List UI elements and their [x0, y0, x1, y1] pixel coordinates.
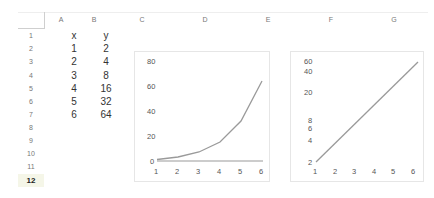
cell-a4[interactable]: 3	[66, 70, 82, 82]
x-tick-label: 6	[411, 167, 415, 176]
column-header-c[interactable]: C	[133, 12, 151, 28]
y-tick-label: 6	[308, 124, 312, 133]
x-tick-label: 1	[313, 167, 317, 176]
row-header-12-active[interactable]: 12	[18, 174, 44, 187]
cell-b5[interactable]: 16	[96, 83, 116, 95]
row-header-6[interactable]: 6	[18, 96, 44, 108]
y-tick-label: 60	[304, 57, 312, 66]
column-header-a[interactable]: A	[52, 12, 70, 28]
cell-b4[interactable]: 8	[96, 70, 116, 82]
column-header-f[interactable]: F	[322, 12, 340, 28]
series-line-y	[316, 62, 418, 162]
row-header-7[interactable]: 7	[18, 109, 44, 121]
y-tick-label: 20	[147, 132, 155, 141]
cell-a7[interactable]: 6	[66, 109, 82, 121]
y-tick-label: 4	[308, 136, 312, 145]
row-header-9[interactable]: 9	[18, 135, 44, 147]
chart-linear-x-axis-labels: 1 2 3 4 5 6	[154, 167, 263, 176]
row-header-8[interactable]: 8	[18, 122, 44, 134]
row-header-11[interactable]: 11	[18, 161, 44, 173]
series-line-y	[157, 81, 262, 160]
x-tick-label: 2	[175, 167, 179, 176]
header-top-line	[18, 12, 428, 13]
x-tick-label: 6	[259, 167, 263, 176]
cell-b7[interactable]: 64	[96, 109, 116, 121]
column-header-d[interactable]: D	[196, 12, 214, 28]
cell-b3[interactable]: 4	[96, 56, 116, 68]
cell-b1[interactable]: y	[96, 30, 116, 42]
cell-b6[interactable]: 32	[96, 96, 116, 108]
chart-log-plot: 60 40 20 8 6 4 2 1 2 3 4 5 6	[291, 52, 423, 181]
chart-log-x-axis-labels: 1 2 3 4 5 6	[313, 167, 415, 176]
cell-a3[interactable]: 2	[66, 56, 82, 68]
cell-b2[interactable]: 2	[96, 43, 116, 55]
chart-linear[interactable]: 80 60 40 20 0 1 2 3 4 5 6	[134, 51, 270, 182]
x-tick-label: 3	[352, 167, 356, 176]
row-header-4[interactable]: 4	[18, 70, 44, 82]
row-header-10[interactable]: 10	[18, 148, 44, 160]
cell-a1[interactable]: x	[66, 30, 82, 42]
column-header-g[interactable]: G	[385, 12, 403, 28]
y-tick-label: 40	[304, 67, 312, 76]
x-tick-label: 5	[391, 167, 395, 176]
chart-linear-plot: 80 60 40 20 0 1 2 3 4 5 6	[135, 52, 269, 181]
row-header-3[interactable]: 3	[18, 56, 44, 68]
x-tick-label: 4	[217, 167, 221, 176]
y-tick-label: 60	[147, 82, 155, 91]
x-tick-label: 5	[238, 167, 242, 176]
y-tick-label: 80	[147, 57, 155, 66]
y-tick-label: 0	[150, 157, 154, 166]
chart-log[interactable]: 60 40 20 8 6 4 2 1 2 3 4 5 6	[290, 51, 424, 182]
cell-a5[interactable]: 4	[66, 83, 82, 95]
y-tick-label: 2	[308, 158, 312, 167]
select-all-corner[interactable]	[18, 12, 45, 29]
cell-a2[interactable]: 1	[66, 43, 82, 55]
chart-log-y-axis-labels: 60 40 20 8 6 4 2	[304, 57, 312, 167]
row-header-1[interactable]: 1	[18, 30, 44, 42]
row-header-5[interactable]: 5	[18, 83, 44, 95]
x-tick-label: 3	[196, 167, 200, 176]
column-header-b[interactable]: B	[85, 12, 103, 28]
row-header-2[interactable]: 2	[18, 43, 44, 55]
column-header-e[interactable]: E	[259, 12, 277, 28]
y-tick-label: 40	[147, 107, 155, 116]
x-tick-label: 1	[154, 167, 158, 176]
cell-a6[interactable]: 5	[66, 96, 82, 108]
x-tick-label: 2	[333, 167, 337, 176]
y-tick-label: 20	[304, 88, 312, 97]
chart-linear-y-axis-labels: 80 60 40 20 0	[147, 57, 155, 166]
x-tick-label: 4	[372, 167, 376, 176]
